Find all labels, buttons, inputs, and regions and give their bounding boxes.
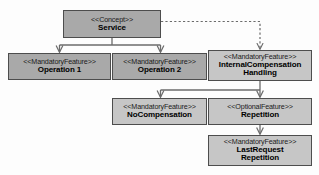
node-operation-2-name: Operation 2 (138, 66, 181, 75)
node-service-name: Service (98, 24, 126, 33)
diagram-canvas: <<Concept>> Service <<MandatoryFeature>>… (0, 0, 319, 175)
node-repetition-name: Repetition (241, 111, 279, 120)
node-internal-compensation-handling-name-line-2: Handling (243, 69, 276, 78)
node-no-compensation-name: NoCompensation (127, 111, 192, 120)
node-internal-compensation-handling[interactable]: <<MandatoryFeature>> InternalCompensatio… (208, 50, 312, 81)
edge-service-to-internal-compensation-handling (161, 22, 260, 50)
edge-ich-to-no-compensation (161, 81, 261, 97)
node-last-request-repetition[interactable]: <<MandatoryFeature>> LastRequest Repetit… (208, 135, 312, 166)
node-operation-2[interactable]: <<MandatoryFeature>> Operation 2 (112, 53, 207, 80)
node-repetition[interactable]: <<OptionalFeature>> Repetition (208, 98, 312, 125)
node-last-request-repetition-name-line-2: Repetition (241, 154, 279, 163)
node-service[interactable]: <<Concept>> Service (63, 10, 161, 38)
node-operation-1-name: Operation 1 (38, 66, 81, 75)
node-operation-1[interactable]: <<MandatoryFeature>> Operation 1 (8, 53, 111, 80)
node-no-compensation[interactable]: <<MandatoryFeature>> NoCompensation (112, 98, 207, 125)
edge-service-to-operation-1 (60, 38, 161, 52)
